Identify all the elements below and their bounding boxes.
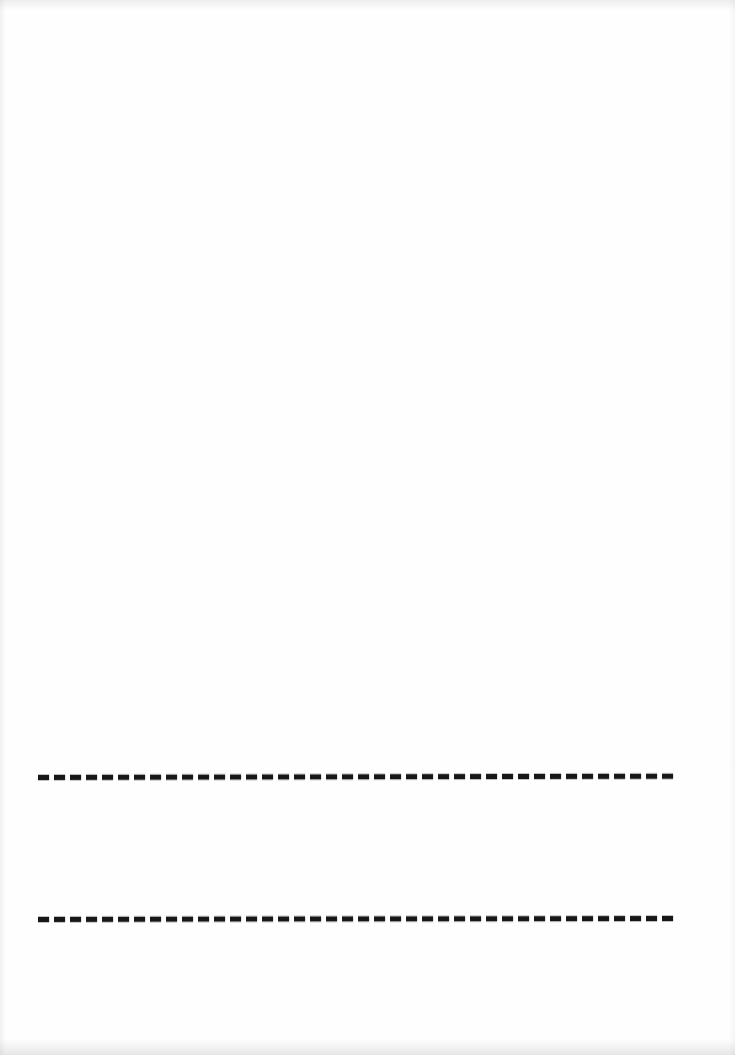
dashed-rule-line-2 [38, 916, 678, 922]
blank-content-area [0, 0, 735, 760]
dashed-rule-line-2-stroke [38, 916, 678, 922]
scanned-page [0, 0, 735, 1055]
dashed-rule-line-1 [38, 774, 675, 780]
dashed-rule-line-1-stroke [38, 774, 675, 780]
scan-edge-bottom-shadow [0, 1039, 735, 1055]
